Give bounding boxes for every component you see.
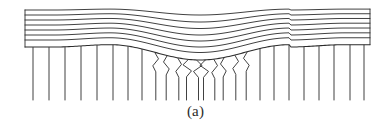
vertical-column-line bbox=[183, 60, 192, 100]
vertical-column-line bbox=[153, 53, 159, 100]
figure-caption: (a) bbox=[0, 103, 391, 120]
vertical-column-line bbox=[200, 60, 209, 100]
vertical-column-line bbox=[164, 56, 170, 100]
vertical-column-line bbox=[233, 55, 239, 100]
horizontal-strata-group bbox=[25, 9, 370, 60]
vertical-columns-group bbox=[33, 45, 364, 100]
horizontal-strata-layer bbox=[25, 18, 370, 28]
vertical-column-line bbox=[244, 52, 250, 100]
vertical-column-line bbox=[176, 58, 182, 100]
horizontal-strata-layer bbox=[25, 38, 370, 53]
vertical-column-line bbox=[221, 58, 227, 100]
vertical-column-line bbox=[212, 60, 218, 100]
figure-container: (a) bbox=[0, 0, 391, 135]
